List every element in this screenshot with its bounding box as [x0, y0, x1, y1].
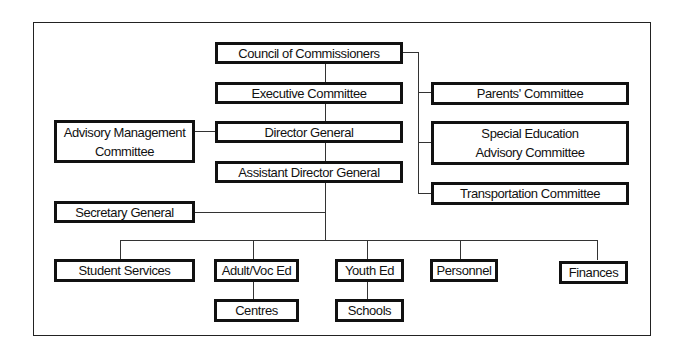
node-advisory-management-committee: Advisory Management Committee — [54, 120, 195, 163]
node-personnel: Personnel — [430, 259, 498, 282]
connector-executive-director — [325, 103, 326, 122]
node-parents-committee: Parents' Committee — [431, 82, 629, 105]
node-label: Centres — [235, 301, 278, 320]
connector-parents — [418, 92, 432, 93]
node-label: Parents' Committee — [477, 84, 584, 103]
node-label-line2: Committee — [95, 142, 154, 161]
connector-adult-centres — [253, 281, 254, 300]
connector-adult-voc — [253, 240, 254, 260]
connector-finances — [597, 240, 598, 260]
connector-personnel — [460, 240, 461, 260]
node-student-services: Student Services — [54, 259, 195, 282]
node-label: Finances — [569, 263, 619, 282]
node-label-line2: Advisory Committee — [475, 143, 584, 162]
connector-department-bus — [120, 240, 598, 241]
connector-student-services — [120, 240, 121, 260]
node-label-line1: Special Education — [481, 124, 578, 143]
node-executive-committee: Executive Committee — [215, 82, 403, 104]
node-label: Assistant Director General — [238, 163, 379, 182]
node-label: Adult/Voc Ed — [222, 261, 292, 280]
node-special-education-advisory-committee: Special Education Advisory Committee — [431, 121, 629, 165]
node-secretary-general: Secretary General — [54, 201, 195, 223]
connector-advisory-director — [194, 131, 216, 132]
node-label: Transportation Committee — [460, 184, 600, 203]
node-centres: Centres — [214, 299, 299, 322]
node-label: Council of Commissioners — [238, 44, 379, 63]
node-label: Schools — [348, 301, 391, 320]
node-council-of-commissioners: Council of Commissioners — [215, 42, 403, 64]
node-label: Secretary General — [75, 203, 174, 222]
node-assistant-director-general: Assistant Director General — [215, 161, 403, 183]
connector-youth-schools — [367, 281, 368, 300]
connector-council-executive — [325, 63, 326, 82]
connector-transportation — [418, 193, 432, 194]
node-label: Executive Committee — [251, 84, 366, 103]
node-label: Youth Ed — [345, 261, 394, 280]
connector-assistant-bus — [325, 183, 326, 240]
node-schools: Schools — [335, 299, 404, 322]
connector-director-assistant — [325, 143, 326, 162]
node-label: Director General — [265, 123, 354, 142]
node-label-line1: Advisory Management — [64, 123, 186, 142]
node-label: Personnel — [437, 261, 492, 280]
node-director-general: Director General — [215, 121, 403, 143]
connector-youth-ed — [367, 240, 368, 260]
node-transportation-committee: Transportation Committee — [431, 182, 629, 205]
node-adult-voc-ed: Adult/Voc Ed — [214, 259, 299, 282]
node-finances: Finances — [559, 261, 628, 284]
node-label: Student Services — [79, 261, 171, 280]
connector-council-bracket — [402, 52, 418, 53]
connector-special-ed — [418, 142, 432, 143]
connector-secretary-trunk — [194, 212, 325, 213]
connector-committees-bracket — [418, 52, 419, 194]
node-youth-ed: Youth Ed — [335, 259, 404, 282]
